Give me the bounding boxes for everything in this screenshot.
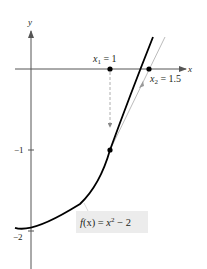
y-tick-label-minus-1: −1 (14, 145, 24, 155)
function-curve (15, 37, 153, 229)
point-x2 (146, 66, 151, 71)
tangent-line (110, 37, 165, 150)
newton-method-diagram: x y −1 −2 x1 = 1 x2 = 1.5 f(x) = x2 − 2 (0, 0, 207, 269)
x-axis-label: x (187, 64, 192, 74)
y-tick-label-minus-2: −2 (13, 232, 23, 242)
y-axis-label: y (27, 17, 32, 27)
label-leader-line (84, 203, 88, 211)
function-label: f(x) = x2 − 2 (80, 216, 131, 229)
point-x1 (107, 66, 112, 71)
point-curve (107, 147, 112, 152)
x1-label: x1 = 1 (92, 53, 117, 66)
x2-label: x2 = 1.5 (149, 73, 181, 86)
